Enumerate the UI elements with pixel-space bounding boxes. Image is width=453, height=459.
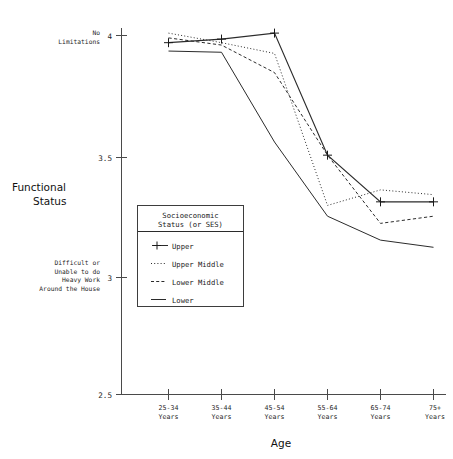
x-tick-label-4-line2: Years	[371, 413, 391, 421]
y-axis-title-line1: Functional	[12, 181, 66, 193]
legend-title-line1: Socioeconomic	[162, 211, 218, 220]
chart-container: 4 3.5 3 2.5 No Limitations Difficult or …	[0, 0, 453, 459]
data-point-marker	[429, 197, 438, 206]
y-annotation-difficult: Difficult or Unable to do Heavy Work Aro…	[39, 259, 100, 292]
line-chart: 4 3.5 3 2.5 No Limitations Difficult or …	[0, 0, 453, 459]
legend-title-line2: Status (or SES)	[158, 220, 223, 229]
legend-label-upper-middle: Upper Middle	[172, 260, 224, 269]
x-tick-label-5-line2: Years	[425, 413, 445, 421]
y-tick-label-2.5: 2.5	[98, 391, 112, 400]
y-annotation-no-limitations: No Limitations	[58, 29, 100, 45]
x-tick-label-5-line1: 75+	[429, 404, 441, 412]
x-tick-label-1-line2: Years	[212, 413, 232, 421]
y-axis-title: Functional Status	[12, 181, 66, 207]
anno-bottom-line3: Heavy Work	[62, 276, 100, 284]
legend-label-upper: Upper	[172, 242, 194, 251]
x-tick-label-0-line1: 25-34	[159, 404, 179, 412]
y-tick-label-3: 3	[107, 274, 112, 283]
anno-bottom-line2: Unable to do	[55, 268, 101, 275]
anno-top-line2: Limitations	[58, 38, 100, 45]
y-axis-title-line2: Status	[33, 195, 66, 207]
x-tick-label-1-line1: 35-44	[212, 404, 232, 412]
x-axis-title: Age	[271, 437, 291, 449]
legend-label-lower: Lower	[172, 296, 194, 305]
y-tick-label-3.5: 3.5	[98, 154, 112, 163]
x-tick-label-0-line2: Years	[159, 413, 179, 421]
x-tick-label-4-line1: 65-74	[371, 404, 391, 412]
y-tick-label-4: 4	[107, 32, 112, 41]
data-point-marker	[217, 35, 226, 44]
data-point-marker	[270, 29, 279, 38]
anno-bottom-line4: Around the House	[39, 285, 100, 292]
x-tick-label-2-line1: 45-54	[265, 404, 285, 412]
y-ticks: 4 3.5 3 2.5	[98, 32, 127, 400]
x-tick-label-2-line2: Years	[265, 413, 285, 421]
x-tick-label-3-line1: 55-64	[318, 404, 338, 412]
anno-top-line1: No	[92, 29, 100, 36]
legend: Socioeconomic Status (or SES) Upper Uppe…	[138, 206, 244, 307]
legend-label-lower-middle: Lower Middle	[172, 278, 224, 287]
data-point-marker	[164, 38, 173, 47]
x-tick-label-3-line2: Years	[318, 413, 338, 421]
series-line-0	[169, 33, 434, 202]
anno-bottom-line1: Difficult or	[55, 259, 101, 266]
x-ticks: 25-34 Years 35-44 Years 45-54 Years 55-6…	[159, 389, 445, 421]
